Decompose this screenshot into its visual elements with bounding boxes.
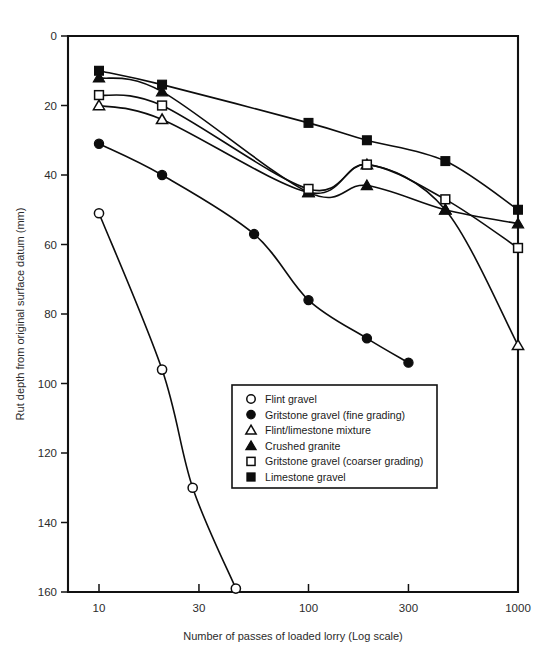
data-point-marker (93, 100, 104, 110)
data-point-marker (304, 296, 313, 305)
y-axis-tick-label: 120 (38, 447, 57, 459)
chart-figure: 02040608010012014016010301003001000 Flin… (0, 0, 560, 660)
data-point-marker (247, 395, 255, 403)
legend-item-label: Flint/limestone mixture (265, 424, 371, 436)
data-point-marker (158, 101, 167, 110)
x-axis-tick-label: 100 (299, 602, 318, 614)
y-axis-tick-label: 80 (44, 308, 57, 320)
data-point-marker (188, 483, 197, 492)
data-point-marker (247, 410, 255, 418)
legend-item-label: Crushed granite (265, 440, 340, 452)
series-2 (93, 100, 523, 349)
legend-item-label: Limestone gravel (265, 471, 346, 483)
data-point-marker (514, 205, 523, 214)
data-point-marker (95, 66, 104, 75)
legend-item-1[interactable]: Gritstone gravel (fine grading) (247, 409, 405, 421)
data-point-marker (362, 334, 371, 343)
data-point-marker (404, 358, 413, 367)
data-point-marker (512, 340, 523, 350)
series-line (99, 144, 408, 363)
data-point-marker (94, 139, 103, 148)
series-line (99, 213, 236, 588)
data-point-marker (441, 195, 450, 204)
y-axis-tick-label: 20 (44, 100, 57, 112)
y-axis-tick-label: 40 (44, 169, 57, 181)
y-axis-tick-label: 60 (44, 239, 57, 251)
y-axis-tick-label: 160 (38, 586, 57, 598)
x-axis-tick-label: 10 (93, 602, 106, 614)
data-point-marker (247, 457, 255, 465)
legend-item-4[interactable]: Gritstone gravel (coarser grading) (247, 455, 423, 467)
rut-depth-chart: 02040608010012014016010301003001000 Flin… (0, 0, 560, 660)
data-point-marker (94, 209, 103, 218)
chart-legend: Flint gravelGritstone gravel (fine gradi… (232, 385, 437, 488)
series-0 (94, 209, 240, 594)
x-axis-title: Number of passes of loaded lorry (Log sc… (183, 630, 403, 642)
data-series (93, 66, 523, 593)
data-point-marker (362, 136, 371, 145)
data-point-marker (514, 244, 523, 253)
data-point-marker (304, 118, 313, 127)
data-point-marker (441, 157, 450, 166)
data-point-marker (247, 473, 255, 481)
data-point-marker (95, 91, 104, 100)
legend-item-label: Gritstone gravel (coarser grading) (265, 455, 423, 467)
legend-item-label: Flint gravel (265, 393, 317, 405)
data-point-marker (158, 80, 167, 89)
legend-item-label: Gritstone gravel (fine grading) (265, 409, 405, 421)
data-point-marker (250, 229, 259, 238)
data-point-marker (156, 114, 167, 124)
x-axis-tick-label: 300 (399, 602, 418, 614)
series-3 (93, 72, 523, 228)
data-point-marker (362, 160, 371, 169)
data-point-marker (231, 584, 240, 593)
series-1 (94, 139, 413, 367)
y-axis-tick-label: 140 (38, 517, 57, 529)
data-point-marker (304, 185, 313, 194)
x-axis-tick-label: 1000 (505, 602, 531, 614)
series-line (99, 106, 518, 346)
y-axis-title: Rut depth from original surface datum (m… (14, 208, 26, 421)
series-line (99, 78, 518, 224)
legend-item-2[interactable]: Flint/limestone mixture (246, 424, 371, 436)
y-axis-tick-label: 0 (51, 30, 57, 42)
data-point-marker (157, 365, 166, 374)
x-axis-tick-label: 30 (193, 602, 206, 614)
y-axis-tick-label: 100 (38, 378, 57, 390)
axes: 02040608010012014016010301003001000 (38, 30, 531, 614)
data-point-marker (157, 170, 166, 179)
